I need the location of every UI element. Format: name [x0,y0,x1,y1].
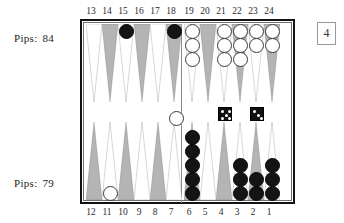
checker-white-point-22[interactable] [233,24,248,39]
checker-black-point-6[interactable] [185,158,200,173]
die-pip [260,117,263,120]
point-number-9: 9 [131,206,147,218]
checker-white-point-22[interactable] [233,52,248,67]
die-left[interactable] [218,107,232,121]
die-right[interactable] [250,107,264,121]
checker-white-point-19[interactable] [185,38,200,53]
checker-black-point-1[interactable] [265,158,280,173]
point-number-10: 10 [115,206,131,218]
point-number-1: 1 [261,206,277,218]
checker-black-point-1[interactable] [265,186,280,201]
checker-black-point-6[interactable] [185,130,200,145]
point-13[interactable] [86,24,102,102]
checker-black-point-3[interactable] [233,186,248,201]
point-14[interactable] [102,24,118,102]
top-point-number-row: 131415161718192021222324 [80,5,295,17]
point-number-2: 2 [245,206,261,218]
checker-black-point-15[interactable] [119,24,134,39]
bottom-pip-count: Pips:79 [14,177,54,189]
point-5[interactable] [200,122,216,200]
checker-white-point-21[interactable] [217,24,232,39]
point-number-7: 7 [163,206,179,218]
die-pip [221,110,224,113]
doubling-cube[interactable]: 4 [317,22,336,45]
point-number-21: 21 [213,5,229,17]
die-pip [253,110,256,113]
top-pip-label: Pips: [14,32,38,44]
checker-white-point-24[interactable] [265,24,280,39]
point-number-19: 19 [181,5,197,17]
checker-white-point-24[interactable] [265,38,280,53]
checker-black-point-2[interactable] [249,172,264,187]
die-pip [257,114,260,117]
bottom-point-number-row: 121110987654321 [80,206,295,218]
point-number-15: 15 [115,5,131,17]
checker-black-point-18[interactable] [167,24,182,39]
checker-black-point-3[interactable] [233,172,248,187]
point-8[interactable] [150,122,166,200]
backgammon-screenshot: Pips:84 Pips:79 4 1314151617181920212223… [0,0,344,223]
point-number-4: 4 [213,206,229,218]
die-pip [225,114,228,117]
point-number-24: 24 [261,5,277,17]
checker-black-point-2[interactable] [249,186,264,201]
point-20[interactable] [200,24,216,102]
checker-white-point-11[interactable] [103,186,118,201]
top-pip-count: Pips:84 [14,32,54,44]
checker-white-point-19[interactable] [185,24,200,39]
point-number-20: 20 [197,5,213,17]
top-pip-value: 84 [43,32,55,44]
point-7[interactable] [166,122,182,200]
point-number-5: 5 [197,206,213,218]
checker-black-point-6[interactable] [185,172,200,187]
point-number-18: 18 [163,5,179,17]
point-number-16: 16 [131,5,147,17]
checker-white-point-21[interactable] [217,52,232,67]
bottom-pip-value: 79 [43,177,55,189]
point-16[interactable] [134,24,150,102]
point-10[interactable] [118,122,134,200]
checker-black-point-6[interactable] [185,186,200,201]
point-number-11: 11 [99,206,115,218]
backgammon-board[interactable] [80,19,295,204]
checker-black-point-3[interactable] [233,158,248,173]
point-number-17: 17 [147,5,163,17]
bottom-pip-label: Pips: [14,177,38,189]
doubling-cube-value: 4 [324,26,330,41]
point-number-8: 8 [147,206,163,218]
point-number-14: 14 [99,5,115,17]
checker-white-on-bar[interactable] [169,111,184,126]
checker-white-point-19[interactable] [185,52,200,67]
point-number-13: 13 [83,5,99,17]
die-pip [228,117,231,120]
point-number-3: 3 [229,206,245,218]
point-number-22: 22 [229,5,245,17]
board-playing-surface [83,22,292,201]
checker-black-point-1[interactable] [265,172,280,187]
checker-white-point-23[interactable] [249,24,264,39]
checker-white-point-21[interactable] [217,38,232,53]
point-9[interactable] [134,122,150,200]
die-pip [228,110,231,113]
point-4[interactable] [216,122,232,200]
point-number-6: 6 [181,206,197,218]
checker-white-point-22[interactable] [233,38,248,53]
point-number-12: 12 [83,206,99,218]
point-17[interactable] [150,24,166,102]
checker-white-point-23[interactable] [249,38,264,53]
point-number-23: 23 [245,5,261,17]
die-pip [221,117,224,120]
point-12[interactable] [86,122,102,200]
checker-black-point-6[interactable] [185,144,200,159]
